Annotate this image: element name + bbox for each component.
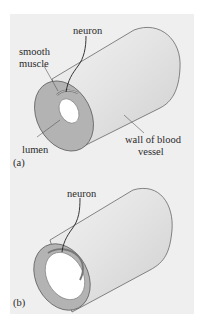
label-neuron-b: neuron (67, 188, 97, 199)
panel-b-diagram: neuron (b) (13, 188, 172, 320)
panel-a-tag: (a) (13, 157, 25, 169)
label-wall-2: vessel (138, 146, 164, 157)
panel-a-diagram: neuron smooth muscle lumen wall of blood… (13, 25, 182, 169)
label-smooth-muscle-2: muscle (19, 58, 49, 69)
label-lumen: lumen (22, 144, 49, 155)
label-neuron-a: neuron (73, 25, 103, 36)
label-wall-1: wall of blood (125, 134, 182, 145)
blood-vessel-figure: neuron smooth muscle lumen wall of blood… (0, 0, 201, 325)
panel-b-tag: (b) (13, 297, 26, 309)
label-smooth-muscle-1: smooth (19, 46, 51, 57)
